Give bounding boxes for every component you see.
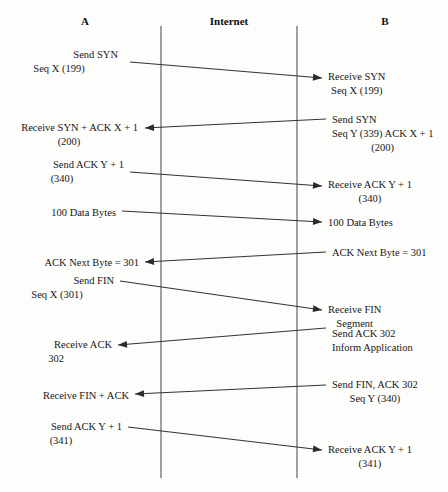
column-header-host-b: B — [381, 16, 388, 27]
msg-send-ack-y1-final-target-line-1: (341) — [328, 457, 412, 471]
arrow-layer — [118, 62, 326, 452]
msg-send-fin-line — [120, 281, 322, 310]
msg-send-syn-ack-source-line-1: Seq Y (339) ACK X + 1 — [332, 127, 433, 141]
msg-send-fin-ack-arrowhead — [135, 390, 144, 397]
msg-100-data-bytes-source-line-0: 100 Data Bytes — [0, 206, 116, 220]
msg-send-syn-target-line-1: Seq X (199) — [328, 84, 385, 98]
msg-send-fin-arrowhead — [313, 305, 322, 312]
msg-send-ack-302-target-line-1: 302 — [0, 352, 112, 366]
msg-send-ack-y1-source-line-1: (340) — [0, 172, 124, 186]
column-header-internet: Internet — [210, 16, 249, 27]
lifeline-layer — [161, 26, 297, 478]
msg-send-fin-ack-target-line-0: Receive FIN + ACK — [0, 389, 129, 403]
msg-send-fin-source-line-1: Seq X (301) — [0, 288, 114, 302]
msg-send-syn-source-label: Send SYNSeq X (199) — [0, 48, 118, 76]
msg-send-ack-y1-target-label: Receive ACK Y + 1(340) — [328, 178, 412, 206]
msg-send-syn-ack-source-label: Send SYNSeq Y (339) ACK X + 1(200) — [332, 113, 433, 155]
tcp-sequence-diagram: AInternetB Send SYNSeq X (199)Receive SY… — [0, 0, 448, 492]
msg-send-syn-line — [130, 62, 322, 78]
msg-ack-next-byte-line — [145, 252, 326, 262]
msg-100-data-bytes-target-line-0: 100 Data Bytes — [328, 216, 393, 230]
msg-send-fin-target-line-0: Receive FIN — [328, 303, 381, 317]
msg-send-ack-302-source-line-0: Send ACK 302 — [332, 327, 413, 341]
msg-send-fin-source-label: Send FINSeq X (301) — [0, 274, 114, 302]
msg-ack-next-byte-source-line-0: ACK Next Byte = 301 — [332, 246, 427, 260]
msg-send-ack-y1-target-line-0: Receive ACK Y + 1 — [328, 178, 412, 192]
msg-send-ack-y1-final-line — [128, 427, 322, 450]
msg-send-ack-y1-final-source-label: Send ACK Y + 1(341) — [0, 420, 122, 448]
msg-100-data-bytes-line — [122, 211, 322, 222]
msg-send-ack-302-target-label: Receive ACK302 — [0, 338, 112, 366]
msg-send-ack-y1-final-target-line-0: Receive ACK Y + 1 — [328, 443, 412, 457]
msg-ack-next-byte-source-label: ACK Next Byte = 301 — [332, 246, 427, 260]
msg-100-data-bytes-arrowhead — [313, 218, 322, 225]
msg-send-ack-y1-final-arrowhead — [313, 446, 322, 453]
msg-send-ack-302-source-line-1: Inform Application — [332, 341, 413, 355]
msg-send-ack-302-line — [118, 328, 326, 345]
msg-send-syn-ack-source-line-0: Send SYN — [332, 113, 433, 127]
msg-send-ack-y1-final-target-label: Receive ACK Y + 1(341) — [328, 443, 412, 471]
msg-send-fin-ack-source-label: Send FIN, ACK 302Seq Y (340) — [332, 378, 418, 406]
msg-send-ack-y1-line — [130, 172, 322, 186]
msg-send-ack-y1-source-label: Send ACK Y + 1(340) — [0, 158, 124, 186]
column-header-host-a: A — [81, 16, 89, 27]
msg-send-syn-ack-target-line-1: (200) — [0, 135, 138, 149]
msg-send-fin-source-line-0: Send FIN — [0, 274, 114, 288]
msg-send-ack-y1-target-line-1: (340) — [328, 192, 412, 206]
msg-send-ack-y1-final-source-line-1: (341) — [0, 434, 122, 448]
msg-send-fin-ack-target-label: Receive FIN + ACK — [0, 389, 129, 403]
msg-send-syn-target-line-0: Receive SYN — [328, 70, 385, 84]
msg-100-data-bytes-source-label: 100 Data Bytes — [0, 206, 116, 220]
msg-send-ack-302-target-line-0: Receive ACK — [0, 338, 112, 352]
msg-send-syn-ack-arrowhead — [145, 124, 154, 131]
msg-send-ack-302-source-label: Send ACK 302Inform Application — [332, 327, 413, 355]
msg-ack-next-byte-arrowhead — [145, 258, 154, 265]
msg-ack-next-byte-target-line-0: ACK Next Byte = 301 — [0, 256, 139, 270]
msg-send-ack-302-arrowhead — [118, 341, 127, 348]
msg-send-syn-target-label: Receive SYNSeq X (199) — [328, 70, 385, 98]
msg-send-fin-ack-source-line-0: Send FIN, ACK 302 — [332, 378, 418, 392]
msg-send-syn-source-line-1: Seq X (199) — [0, 62, 118, 76]
msg-send-fin-ack-source-line-1: Seq Y (340) — [332, 392, 418, 406]
msg-send-syn-ack-target-label: Receive SYN + ACK X + 1(200) — [0, 121, 138, 149]
msg-send-syn-arrowhead — [313, 74, 322, 81]
msg-send-ack-y1-final-source-line-0: Send ACK Y + 1 — [0, 420, 122, 434]
msg-100-data-bytes-target-label: 100 Data Bytes — [328, 216, 393, 230]
msg-send-ack-y1-arrowhead — [313, 182, 322, 189]
msg-ack-next-byte-target-label: ACK Next Byte = 301 — [0, 256, 139, 270]
msg-send-syn-ack-line — [145, 119, 326, 128]
msg-send-syn-source-line-0: Send SYN — [0, 48, 118, 62]
msg-send-syn-ack-source-line-2: (200) — [332, 141, 433, 155]
msg-send-ack-y1-source-line-0: Send ACK Y + 1 — [0, 158, 124, 172]
msg-send-syn-ack-target-line-0: Receive SYN + ACK X + 1 — [0, 121, 138, 135]
